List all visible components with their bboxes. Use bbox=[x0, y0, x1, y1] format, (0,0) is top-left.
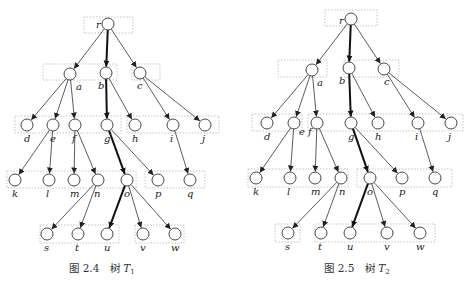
edge-i-q bbox=[420, 129, 433, 172]
node-label-h: h bbox=[132, 133, 138, 144]
edge-f-n bbox=[319, 128, 338, 172]
edge-r-a bbox=[316, 24, 347, 65]
node-label-k: k bbox=[12, 188, 18, 199]
edge-o-w bbox=[374, 182, 416, 228]
tree-figures: rabcdefghijklmnopqstuvwrabcdefghijklmnop… bbox=[0, 0, 470, 281]
node-a bbox=[64, 68, 76, 80]
node-h bbox=[372, 117, 384, 129]
node-t bbox=[315, 227, 327, 239]
node-label-r: r bbox=[339, 15, 345, 26]
edge-a-e bbox=[55, 80, 68, 119]
node-r bbox=[345, 13, 357, 25]
edge-b-g-highlighted bbox=[349, 74, 351, 117]
node-c bbox=[378, 63, 390, 75]
node-p bbox=[396, 172, 408, 184]
node-label-c: c bbox=[137, 80, 143, 91]
node-label-b: b bbox=[339, 75, 345, 86]
node-label-m: m bbox=[311, 186, 320, 197]
edge-a-f bbox=[313, 76, 317, 117]
node-label-f: f bbox=[71, 133, 78, 144]
edge-f-m bbox=[315, 129, 317, 172]
node-label-a: a bbox=[317, 77, 323, 88]
node-label-m: m bbox=[70, 188, 79, 199]
node-label-v: v bbox=[140, 242, 146, 253]
node-h bbox=[129, 119, 141, 131]
node-t bbox=[72, 228, 84, 240]
node-p bbox=[152, 174, 164, 186]
node-m bbox=[68, 174, 80, 186]
node-o bbox=[121, 174, 133, 186]
node-label-p: p bbox=[155, 188, 162, 199]
node-label-o: o bbox=[124, 188, 130, 199]
edge-o-u-highlighted bbox=[109, 186, 125, 228]
node-v bbox=[381, 227, 393, 239]
node-label-v: v bbox=[384, 241, 390, 252]
node-label-a: a bbox=[76, 81, 82, 92]
node-m bbox=[309, 172, 321, 184]
node-label-q: q bbox=[432, 186, 438, 197]
node-c bbox=[134, 67, 146, 79]
edge-o-u-highlighted bbox=[352, 184, 368, 227]
level-group-box bbox=[278, 60, 327, 77]
edge-f-n bbox=[77, 131, 95, 174]
edge-r-b-highlighted bbox=[349, 25, 350, 62]
node-label-s: s bbox=[44, 242, 49, 253]
tree-diagram-svg: rabcdefghijklmnopqstuvwrabcdefghijklmnop… bbox=[0, 0, 470, 281]
node-label-u: u bbox=[347, 241, 353, 252]
node-j bbox=[445, 117, 457, 129]
node-label-g: g bbox=[348, 131, 354, 142]
node-label-s: s bbox=[285, 241, 290, 252]
edge-b-h bbox=[109, 78, 132, 119]
node-label-l: l bbox=[46, 188, 49, 199]
edge-c-i bbox=[387, 74, 414, 117]
node-label-n: n bbox=[339, 186, 345, 197]
edge-c-j bbox=[389, 73, 446, 119]
node-label-t: t bbox=[75, 242, 80, 253]
node-i bbox=[167, 119, 179, 131]
node-label-k: k bbox=[253, 186, 259, 197]
edge-o-w bbox=[131, 184, 171, 229]
node-o bbox=[364, 172, 376, 184]
node-q bbox=[184, 174, 196, 186]
node-n bbox=[335, 172, 347, 184]
node-label-j: j bbox=[200, 133, 205, 144]
node-a bbox=[306, 64, 318, 76]
edge-c-i bbox=[143, 78, 169, 119]
node-q bbox=[429, 172, 441, 184]
node-w bbox=[414, 227, 426, 239]
edge-o-v bbox=[372, 184, 385, 227]
node-label-q: q bbox=[187, 188, 193, 199]
edge-g-o-highlighted bbox=[109, 131, 125, 174]
node-label-l: l bbox=[287, 186, 290, 197]
node-label-p: p bbox=[399, 186, 406, 197]
node-f bbox=[311, 117, 323, 129]
edge-o-v bbox=[129, 186, 141, 228]
edge-c-j bbox=[145, 77, 200, 121]
edge-a-d bbox=[271, 75, 308, 118]
node-f bbox=[69, 119, 81, 131]
node-g bbox=[101, 119, 113, 131]
node-l bbox=[284, 172, 296, 184]
node-n bbox=[92, 174, 104, 186]
node-r bbox=[102, 18, 114, 30]
edge-b-g-highlighted bbox=[106, 79, 107, 119]
edge-r-c bbox=[354, 24, 380, 64]
edge-a-d bbox=[31, 79, 66, 120]
node-j bbox=[199, 119, 211, 131]
node-l bbox=[43, 174, 55, 186]
nodes: rabcdefghijklmnopqstuvwrabcdefghijklmnop… bbox=[9, 13, 457, 253]
edge-r-a bbox=[74, 29, 104, 69]
node-w bbox=[169, 228, 181, 240]
node-u bbox=[101, 228, 113, 240]
node-label-h: h bbox=[375, 131, 381, 142]
node-i bbox=[412, 117, 424, 129]
node-label-e: e bbox=[299, 126, 305, 137]
node-label-o: o bbox=[367, 186, 373, 197]
node-label-r: r bbox=[96, 19, 102, 30]
edge-i-q bbox=[175, 131, 188, 174]
node-s bbox=[41, 228, 53, 240]
node-label-w: w bbox=[171, 242, 180, 253]
captions: 图 2.4 树 T1图 2.5 树 T2 bbox=[69, 262, 389, 276]
node-k bbox=[9, 174, 21, 186]
node-s bbox=[282, 227, 294, 239]
